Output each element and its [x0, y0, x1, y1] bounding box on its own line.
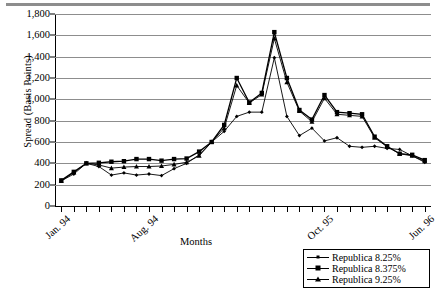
x-axis-tick — [375, 207, 376, 212]
legend-item: Republica 9.25% — [307, 274, 426, 285]
x-axis-tick — [337, 207, 338, 212]
x-axis-tick — [400, 207, 401, 212]
series-line — [61, 39, 424, 181]
x-axis-tick — [412, 207, 413, 212]
x-axis-tick — [187, 207, 188, 212]
x-axis-tick-label: Oct. 95 — [305, 213, 335, 242]
data-point-marker — [260, 110, 264, 114]
y-axis-tick-label: 600 — [8, 137, 50, 148]
y-axis-tick-label: 200 — [8, 179, 50, 190]
series-line — [61, 32, 424, 180]
legend-item-label: Republica 8.25% — [332, 252, 401, 263]
data-point-marker — [160, 174, 164, 178]
x-axis-tick — [312, 207, 313, 212]
x-axis-tick — [425, 207, 426, 212]
data-point-marker — [197, 149, 201, 153]
series-diamond — [59, 56, 426, 183]
y-axis-tick-label: 0 — [8, 201, 50, 212]
y-axis-tick-label: 1,400 — [8, 51, 50, 62]
x-axis-tick — [274, 207, 275, 212]
y-axis-tick-label: 1,800 — [8, 9, 50, 20]
y-axis-tick-group: 02004006008001,0001,2001,4001,6001,800 — [0, 0, 50, 286]
series-line — [61, 58, 424, 181]
x-axis-tick — [136, 207, 137, 212]
x-axis-tick — [287, 207, 288, 212]
x-axis-tick — [86, 207, 87, 212]
data-point-marker — [122, 159, 126, 163]
data-point-marker — [159, 158, 163, 162]
data-point-marker — [147, 157, 151, 161]
y-axis-tick-label: 1,200 — [8, 73, 50, 84]
y-axis-tick-label: 800 — [8, 115, 50, 126]
data-point-marker — [360, 145, 364, 149]
legend-marker-square-icon — [307, 263, 329, 274]
x-axis-tick — [299, 207, 300, 212]
chart-legend: Republica 8.25%Republica 8.375%Republica… — [303, 249, 430, 288]
x-axis-tick-label: Aug. 94 — [128, 213, 161, 244]
data-point-marker — [147, 172, 151, 176]
data-point-marker — [247, 110, 251, 114]
x-axis-tick — [350, 207, 351, 212]
plot-area: Jan. 94Aug. 94Oct. 95Jun. 96 — [55, 14, 431, 206]
data-point-marker — [235, 76, 239, 80]
legend-item: Republica 8.375% — [307, 263, 426, 274]
data-point-marker — [122, 171, 126, 175]
x-axis-tick — [74, 207, 75, 212]
data-point-marker — [172, 157, 176, 161]
legend-item-label: Republica 8.375% — [332, 263, 406, 274]
data-point-marker — [398, 148, 402, 152]
series-layer — [55, 14, 431, 206]
data-point-marker — [135, 173, 139, 177]
y-axis-tick-label: 400 — [8, 158, 50, 169]
x-axis-tick — [199, 207, 200, 212]
series-square — [59, 30, 427, 183]
legend-marker-diamond-icon — [307, 252, 329, 263]
data-point-marker — [172, 167, 176, 171]
x-axis-tick — [149, 207, 150, 212]
series-triangle — [59, 36, 427, 183]
y-axis-tick-label: 1,600 — [8, 30, 50, 41]
x-axis-tick — [212, 207, 213, 212]
x-axis-title: Months — [180, 236, 212, 247]
x-axis-tick — [324, 207, 325, 212]
data-point-marker — [272, 56, 276, 60]
x-axis-tick — [249, 207, 250, 212]
data-point-marker — [109, 160, 113, 164]
data-point-marker — [373, 144, 377, 148]
x-axis-tick — [162, 207, 163, 212]
x-axis-tick — [362, 207, 363, 212]
x-axis-tick-label: Jun. 96 — [406, 213, 436, 241]
x-axis-tick — [61, 207, 62, 212]
x-axis-tick — [237, 207, 238, 212]
x-axis-tick — [111, 207, 112, 212]
y-axis-tick-label: 1,000 — [8, 94, 50, 105]
x-axis-tick — [262, 207, 263, 212]
x-axis-tick — [124, 207, 125, 212]
x-axis-tick — [174, 207, 175, 212]
legend-marker-triangle-icon — [307, 274, 329, 285]
x-axis-tick — [387, 207, 388, 212]
data-point-marker — [134, 157, 138, 161]
data-point-marker — [272, 30, 276, 34]
legend-item-label: Republica 9.25% — [332, 274, 401, 285]
legend-item: Republica 8.25% — [307, 252, 426, 263]
x-axis-tick — [99, 207, 100, 212]
top-rule-divider — [6, 3, 430, 6]
x-axis-tick — [224, 207, 225, 212]
